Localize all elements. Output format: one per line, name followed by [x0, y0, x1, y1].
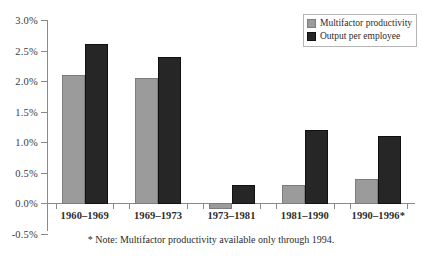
x-axis-tick: [407, 203, 408, 209]
x-axis-tick: [187, 203, 188, 209]
y-axis-tick: [41, 173, 48, 174]
y-axis-tick-label: 2.5%: [0, 45, 38, 56]
y-axis-tick: [41, 81, 48, 82]
chart-footnote: * Note: Multifactor productivity availab…: [0, 234, 422, 245]
x-axis-tick: [350, 203, 351, 209]
x-axis-group-label: 1973–1981: [207, 210, 255, 221]
x-axis-tick: [260, 203, 261, 209]
bar: [158, 57, 181, 204]
legend-swatch-icon-output-per-employee: [307, 32, 316, 41]
y-axis-tick: [41, 112, 48, 113]
x-axis-tick: [56, 203, 57, 209]
x-axis-group-label: 1981–1990: [281, 210, 329, 221]
x-axis-tick: [334, 203, 335, 209]
legend: Multifactor productivity Output per empl…: [303, 14, 417, 47]
x-axis-group-label: 1969–1973: [134, 210, 182, 221]
legend-item-output-per-employee: Output per employee: [307, 30, 412, 43]
bar: [232, 185, 255, 204]
y-axis-tick: [41, 20, 48, 21]
x-axis-tick: [203, 203, 204, 209]
x-axis-tick: [113, 203, 114, 209]
y-axis-tick-label: 0.5%: [0, 167, 38, 178]
bar: [305, 130, 328, 204]
y-axis-tick-label: 0.0%: [0, 198, 38, 209]
y-axis-tick: [41, 142, 48, 143]
x-axis-tick: [276, 203, 277, 209]
bar: [378, 136, 401, 204]
y-axis-tick-label: 1.5%: [0, 106, 38, 117]
y-axis-tick-label: 3.0%: [0, 15, 38, 26]
bar: [135, 78, 158, 204]
x-axis-group-label: 1990–1996*: [352, 210, 406, 221]
x-axis-group-label: 1960–1969: [61, 210, 109, 221]
bar: [209, 203, 232, 209]
y-axis-tick: [41, 51, 48, 52]
legend-item-multifactor-productivity: Multifactor productivity: [307, 17, 412, 30]
bar-chart: 3.0%2.5%2.0%1.5%1.0%0.5%0.0%-0.5% 1960–1…: [0, 0, 422, 260]
y-axis-tick: [41, 203, 48, 204]
x-axis-tick: [129, 203, 130, 209]
y-axis-tick-label: 1.0%: [0, 137, 38, 148]
y-axis-tick-label: 2.0%: [0, 76, 38, 87]
legend-swatch-icon-multifactor-productivity: [307, 19, 316, 28]
bar: [282, 185, 305, 204]
y-axis-line: [47, 20, 48, 231]
legend-label-multifactor-productivity: Multifactor productivity: [320, 18, 412, 29]
bar: [355, 179, 378, 204]
legend-label-output-per-employee: Output per employee: [320, 31, 400, 42]
bar: [85, 44, 108, 204]
bar: [62, 75, 85, 204]
